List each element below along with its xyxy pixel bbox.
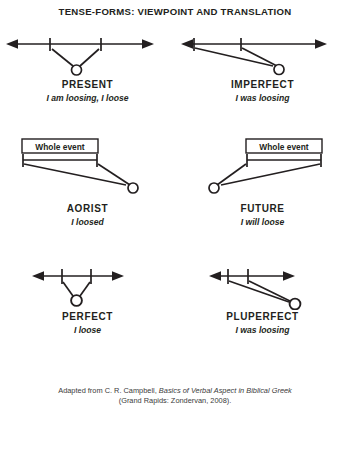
panel-future: Whole event FUTURE I will loose — [175, 133, 350, 199]
viewpoint-ray-left — [24, 164, 126, 185]
tense-label-present: PRESENT — [0, 79, 175, 90]
viewpoint-ray-left — [229, 281, 289, 302]
pluperfect-timeline-svg — [175, 264, 350, 310]
viewpoint-ray-right — [80, 49, 99, 66]
present-timeline-svg — [0, 32, 175, 78]
panel-pluperfect: PLUPERFECT I was loosing — [175, 264, 350, 310]
citation-prefix: Adapted from C. R. Campbell, — [58, 386, 159, 395]
tense-label-aorist: AORIST — [0, 203, 175, 214]
panel-imperfect: IMPERFECT I was loosing — [175, 32, 350, 78]
citation-book-title: Basics of Verbal Aspect in Biblical Gree… — [159, 386, 292, 395]
imperfect-diagram — [175, 32, 350, 78]
gloss-pluperfect: I was loosing — [175, 325, 350, 335]
viewpoint-ray-left — [217, 164, 246, 185]
viewpoint-ray-left — [52, 49, 73, 66]
page-title: TENSE-FORMS: VIEWPOINT AND TRANSLATION — [0, 6, 350, 17]
viewpoint-circle — [274, 65, 284, 75]
viewpoint-circle — [209, 183, 219, 193]
arrowhead-right — [283, 271, 295, 280]
viewpoint-circle — [290, 299, 301, 310]
arrowhead-left — [181, 39, 193, 48]
viewpoint-ray-right — [80, 282, 90, 296]
tense-label-pluperfect: PLUPERFECT — [175, 311, 350, 322]
citation-line-1: Adapted from C. R. Campbell, Basics of V… — [0, 386, 350, 396]
panel-perfect: PERFECT I loose — [0, 264, 175, 310]
viewpoint-circle — [128, 183, 138, 193]
aorist-diagram: Whole event — [0, 133, 175, 199]
gloss-imperfect: I was loosing — [175, 93, 350, 103]
citation-line-2: (Grand Rapids: Zondervan, 2008). — [0, 396, 350, 406]
viewpoint-ray-left — [63, 282, 73, 296]
aorist-timeline-svg: Whole event — [0, 133, 175, 199]
whole-event-box-label: Whole event — [259, 142, 309, 152]
arrowhead-right — [142, 39, 154, 48]
whole-event-box-label: Whole event — [35, 142, 85, 152]
diagram-page: TENSE-FORMS: VIEWPOINT AND TRANSLATION P… — [0, 0, 350, 458]
panel-aorist: Whole event AORIST I loosed — [0, 133, 175, 199]
future-timeline-svg: Whole event — [175, 133, 350, 199]
viewpoint-ray-right — [249, 281, 292, 302]
gloss-future: I will loose — [175, 217, 350, 227]
imperfect-timeline-svg — [175, 32, 350, 78]
arrowhead-left — [32, 271, 44, 280]
tense-label-future: FUTURE — [175, 203, 350, 214]
panel-present: PRESENT I am loosing, I loose — [0, 32, 175, 78]
tense-label-imperfect: IMPERFECT — [175, 79, 350, 90]
viewpoint-circle — [72, 65, 82, 75]
arrowhead-left — [6, 39, 18, 48]
viewpoint-circle — [71, 295, 82, 306]
arrowhead-right — [112, 271, 124, 280]
gloss-aorist: I loosed — [0, 217, 175, 227]
gloss-present: I am loosing, I loose — [0, 93, 175, 103]
perfect-timeline-svg — [0, 264, 175, 310]
pluperfect-diagram — [175, 264, 350, 310]
arrowhead-right — [315, 39, 327, 48]
gloss-perfect: I loose — [0, 325, 175, 335]
present-diagram — [0, 32, 175, 78]
tense-label-perfect: PERFECT — [0, 311, 175, 322]
future-diagram: Whole event — [175, 133, 350, 199]
viewpoint-ray-right — [221, 164, 320, 185]
arrowhead-left — [209, 271, 221, 280]
source-citation: Adapted from C. R. Campbell, Basics of V… — [0, 386, 350, 406]
perfect-diagram — [0, 264, 175, 310]
